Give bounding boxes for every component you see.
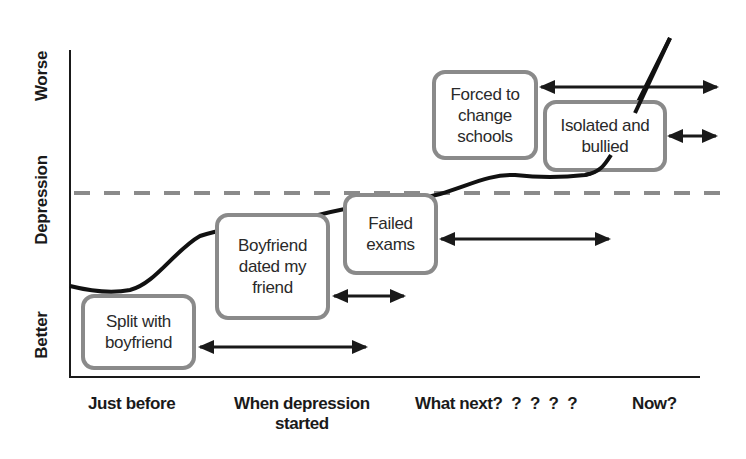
event-label: Boyfriend dated my friend bbox=[238, 235, 307, 298]
y-label-depression: Depression bbox=[32, 150, 52, 250]
x-label-just-before: Just before bbox=[88, 394, 175, 414]
x-label-when-started: When depression started bbox=[234, 394, 370, 434]
event-box-failed-exams: Failed exams bbox=[343, 193, 438, 275]
event-box-boyfriend-dated-friend: Boyfriend dated my friend bbox=[215, 213, 330, 320]
x-label-now: Now? bbox=[632, 394, 677, 414]
event-label: Forced to change schools bbox=[450, 84, 519, 147]
event-label: Isolated and bullied bbox=[560, 115, 649, 157]
event-label: Failed exams bbox=[366, 213, 415, 255]
event-label: Split with boyfriend bbox=[105, 311, 172, 353]
y-label-better: Better bbox=[32, 305, 52, 365]
x-label-what-next: What next? ? ? ? ? bbox=[415, 394, 577, 414]
event-box-split-with-boyfriend: Split with boyfriend bbox=[81, 294, 196, 370]
event-box-forced-to-change-schools: Forced to change schools bbox=[432, 70, 538, 160]
event-box-isolated-and-bullied: Isolated and bullied bbox=[543, 100, 667, 172]
y-label-worse: Worse bbox=[32, 46, 52, 106]
